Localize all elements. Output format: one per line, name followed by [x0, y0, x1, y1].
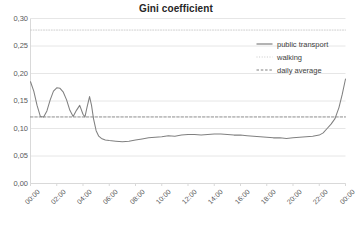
x-axis-tick-label: 04:00	[46, 188, 93, 235]
x-axis-tick-label: 12:00	[151, 188, 198, 235]
x-axis-tick-label: 22:00	[282, 188, 329, 235]
legend-item[interactable]: public transport	[256, 38, 350, 50]
legend-line-swatch-icon	[256, 66, 273, 74]
x-axis-tick-label: 18:00	[229, 188, 276, 235]
x-axis-tick-label: 06:00	[72, 188, 119, 235]
legend-line-swatch-icon	[256, 40, 273, 48]
x-axis-tick-label: 14:00	[177, 188, 224, 235]
legend-item[interactable]: daily average	[256, 64, 350, 76]
x-axis-tick-label: 10:00	[124, 188, 171, 235]
legend-item-label: walking	[277, 53, 302, 62]
x-axis-tick-label: 00:00	[0, 188, 40, 235]
legend-item-label: public transport	[277, 40, 328, 49]
x-axis-tick-label: 00:00	[308, 188, 355, 235]
x-axis-tick-label: 20:00	[256, 188, 303, 235]
x-axis-tick-label: 16:00	[203, 188, 250, 235]
chart-legend: public transportwalkingdaily average	[256, 38, 350, 77]
legend-line-swatch-icon	[256, 53, 273, 61]
x-axis-tick-label: 02:00	[19, 188, 66, 235]
legend-item[interactable]: walking	[256, 51, 350, 63]
legend-item-label: daily average	[277, 66, 322, 75]
x-axis-tick-label: 08:00	[98, 188, 145, 235]
